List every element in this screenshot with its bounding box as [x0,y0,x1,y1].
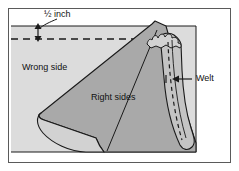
diagram-canvas: ½ inch Wrong side Right sides Welt [0,0,239,171]
right-sides-label: Right sides [91,92,136,102]
welt-pocket-diagram: ½ inch Wrong side Right sides Welt [0,0,239,171]
wrong-side-label: Wrong side [22,62,67,72]
dimension-label: ½ inch [44,9,71,19]
welt-label: Welt [196,73,214,83]
